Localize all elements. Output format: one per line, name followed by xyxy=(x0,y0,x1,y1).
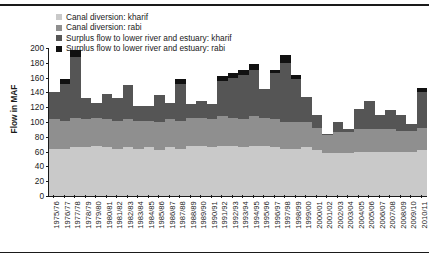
bar-segment xyxy=(385,129,396,151)
x-tick: 1978/79 xyxy=(80,198,91,256)
bar-segment xyxy=(123,119,134,147)
bar-column[interactable] xyxy=(333,48,344,196)
x-tick: 1982/83 xyxy=(122,198,133,256)
bar-segment xyxy=(154,95,165,122)
bar-column[interactable] xyxy=(385,48,396,196)
bar-column[interactable] xyxy=(364,48,375,196)
bar-column[interactable] xyxy=(322,48,333,196)
bar-segment xyxy=(270,73,281,119)
bar-column[interactable] xyxy=(133,48,144,196)
bar-column[interactable] xyxy=(396,48,407,196)
bar-column[interactable] xyxy=(60,48,71,196)
bar-segment xyxy=(81,119,92,147)
bar-segment xyxy=(165,147,176,196)
bar-segment xyxy=(165,103,176,119)
bar-column[interactable] xyxy=(280,48,291,196)
bar-column[interactable] xyxy=(343,48,354,196)
bar-column[interactable] xyxy=(165,48,176,196)
x-tick-mark xyxy=(263,195,264,198)
bar-segment xyxy=(123,147,134,196)
bar-segment xyxy=(270,119,281,147)
bar-segment xyxy=(280,55,291,62)
bar-segment xyxy=(249,116,260,146)
bar-column[interactable] xyxy=(406,48,417,196)
bar-column[interactable] xyxy=(217,48,228,196)
legend-item[interactable]: Canal diversion: kharif xyxy=(56,12,356,23)
bar-column[interactable] xyxy=(123,48,134,196)
bar-segment xyxy=(175,84,186,121)
bar-segment xyxy=(165,119,176,147)
bar-column[interactable] xyxy=(291,48,302,196)
x-tick-mark xyxy=(410,195,411,198)
y-tick-mark xyxy=(46,196,49,197)
bar-column[interactable] xyxy=(354,48,365,196)
bar-segment xyxy=(238,119,249,147)
bar-segment xyxy=(280,122,291,149)
bar-column[interactable] xyxy=(186,48,197,196)
x-tick-mark xyxy=(274,195,275,198)
bar-column[interactable] xyxy=(81,48,92,196)
bar-column[interactable] xyxy=(228,48,239,196)
bar-column[interactable] xyxy=(238,48,249,196)
legend-item[interactable]: Surplus flow to lower river and estuary:… xyxy=(56,33,356,44)
bar-segment xyxy=(291,149,302,196)
x-tick-mark xyxy=(326,195,327,198)
bar-segment xyxy=(238,75,249,119)
x-tick: 1996/97 xyxy=(269,198,280,256)
bar-column[interactable] xyxy=(49,48,60,196)
bar-segment xyxy=(60,121,71,149)
bar-column[interactable] xyxy=(312,48,323,196)
x-tick: 2007/08 xyxy=(384,198,395,256)
bar-column[interactable] xyxy=(70,48,81,196)
bar-segment xyxy=(70,50,81,57)
bar-segment xyxy=(364,152,375,196)
bar-segment xyxy=(396,152,407,196)
bar-series-group xyxy=(49,48,427,196)
x-tick-mark xyxy=(305,195,306,198)
bar-column[interactable] xyxy=(259,48,270,196)
bar-column[interactable] xyxy=(154,48,165,196)
bar-column[interactable] xyxy=(102,48,113,196)
legend-item-label: Surplus flow to lower river and estuary:… xyxy=(66,34,232,43)
bar-column[interactable] xyxy=(249,48,260,196)
bar-segment xyxy=(133,149,144,196)
bar-column[interactable] xyxy=(270,48,281,196)
bar-column[interactable] xyxy=(375,48,386,196)
x-tick-mark xyxy=(389,195,390,198)
bar-segment xyxy=(186,104,197,117)
bar-segment xyxy=(228,78,239,118)
bar-column[interactable] xyxy=(112,48,123,196)
bar-column[interactable] xyxy=(301,48,312,196)
x-tick-mark xyxy=(253,195,254,198)
legend-item[interactable]: Canal diversion: rabi xyxy=(56,23,356,34)
x-axis-labels: 1975/761976/771977/781978/791979/801980/… xyxy=(48,198,426,256)
bar-segment xyxy=(249,70,260,116)
bar-column[interactable] xyxy=(144,48,155,196)
x-tick: 1993/94 xyxy=(237,198,248,256)
x-tick: 1979/80 xyxy=(90,198,101,256)
bar-segment xyxy=(375,115,386,130)
bar-column[interactable] xyxy=(417,48,428,196)
bar-column[interactable] xyxy=(196,48,207,196)
bar-segment xyxy=(196,101,207,117)
bar-segment xyxy=(81,98,92,119)
bar-column[interactable] xyxy=(175,48,186,196)
bar-segment xyxy=(375,152,386,196)
bar-column[interactable] xyxy=(91,48,102,196)
x-tick-mark xyxy=(148,195,149,198)
x-tick-mark xyxy=(137,195,138,198)
bar-segment xyxy=(102,94,113,119)
x-tick: 1995/96 xyxy=(258,198,269,256)
x-tick-mark xyxy=(179,195,180,198)
bar-segment xyxy=(133,106,144,121)
bar-segment xyxy=(417,92,428,128)
x-tick-mark xyxy=(127,195,128,198)
bar-column[interactable] xyxy=(207,48,218,196)
bar-segment xyxy=(228,146,239,196)
x-tick: 2004/05 xyxy=(353,198,364,256)
bar-segment xyxy=(343,153,354,196)
x-tick-mark xyxy=(337,195,338,198)
x-tick: 1977/78 xyxy=(69,198,80,256)
bar-segment xyxy=(301,97,312,122)
bar-segment xyxy=(238,147,249,196)
